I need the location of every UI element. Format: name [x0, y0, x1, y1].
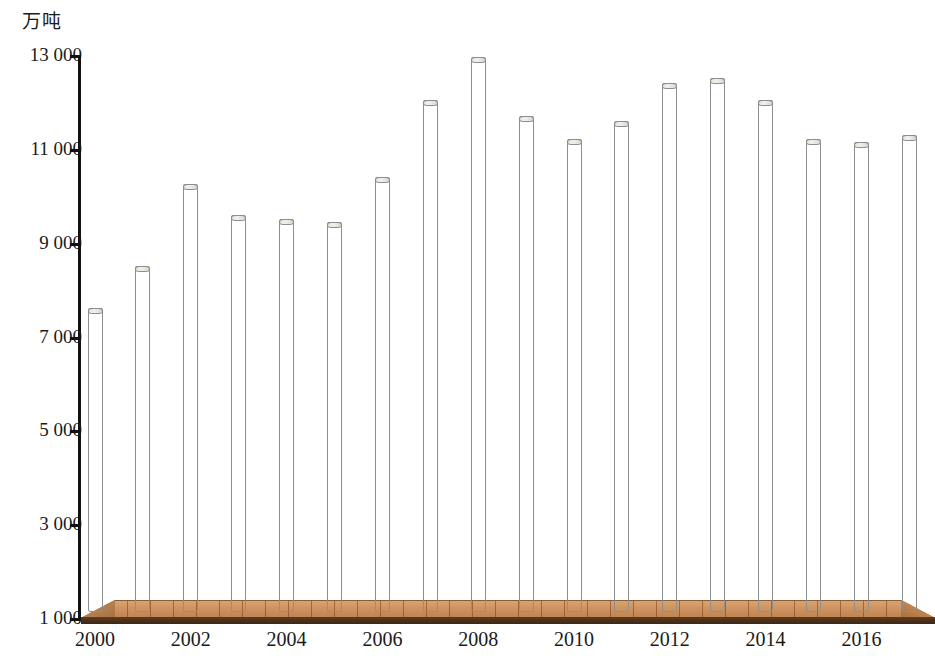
bar-2005: [327, 222, 342, 612]
bar-2003: [231, 215, 246, 612]
bar-2011: [614, 121, 629, 612]
y-axis-tick: 5 000: [0, 430, 82, 433]
x-axis-tick-label: 2012: [635, 628, 705, 650]
y-axis-tick-mark: [70, 149, 81, 152]
x-axis-tick-label: 2016: [826, 628, 896, 650]
x-axis-tick-label: 2008: [443, 628, 513, 650]
bar-2001: [135, 266, 150, 612]
bar-2012: [662, 83, 677, 612]
bar-2010: [567, 139, 582, 612]
bar-2004: [279, 219, 294, 612]
x-axis-tick-label: 2004: [252, 628, 322, 650]
chart-floor-shadow: [81, 617, 935, 624]
y-axis-tick: 3 000: [0, 524, 82, 527]
y-axis-tick-mark: [70, 243, 81, 246]
x-axis-tick-label: 2014: [731, 628, 801, 650]
y-axis-tick: 11 000: [0, 149, 82, 152]
x-axis-tick-label: 2002: [156, 628, 226, 650]
bar-2009: [519, 116, 534, 612]
bar-2006: [375, 177, 390, 612]
y-axis-tick-mark: [70, 524, 81, 527]
bar-2007: [423, 100, 438, 612]
bar-2014: [758, 100, 773, 612]
x-axis-tick-label: 2010: [539, 628, 609, 650]
bar-2015: [806, 139, 821, 612]
y-axis-unit-label: 万吨: [22, 6, 62, 33]
bar-chart: 万吨 1 0003 0005 0007 0009 00011 00013 000…: [0, 0, 935, 662]
y-axis-tick: 1 000: [0, 618, 82, 621]
y-axis-tick: 9 000: [0, 243, 82, 246]
bar-2000: [88, 308, 103, 612]
bar-2013: [710, 78, 725, 612]
y-axis-tick-mark: [70, 430, 81, 433]
y-axis-tick-mark: [70, 55, 81, 58]
bar-2016: [854, 142, 869, 612]
y-axis-tick: 13 000: [0, 55, 82, 58]
y-axis-tick-mark: [70, 337, 81, 340]
bar-2017: [902, 135, 917, 612]
y-axis-tick: 7 000: [0, 337, 82, 340]
bar-2008: [471, 57, 486, 612]
x-axis-tick-label: 2000: [60, 628, 130, 650]
x-axis-tick-label: 2006: [347, 628, 417, 650]
bar-2002: [183, 184, 198, 612]
y-axis-tick-mark: [70, 618, 81, 621]
